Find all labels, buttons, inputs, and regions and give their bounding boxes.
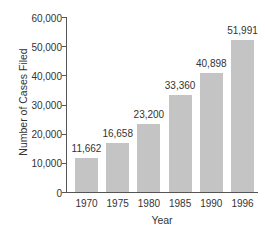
- y-tick-label: 50,000: [31, 41, 62, 52]
- x-axis-line: [66, 192, 258, 193]
- y-tick-label: 30,000: [31, 100, 62, 111]
- bar-1980: [137, 124, 160, 192]
- x-axis-label: Year: [66, 214, 258, 226]
- y-tick: [62, 17, 66, 18]
- bar-1975: [106, 143, 129, 192]
- bar-value-label: 23,200: [129, 109, 169, 120]
- y-axis-label: Number of Cases Filed: [17, 37, 29, 167]
- bar-1970: [75, 158, 98, 192]
- bar-value-label: 33,360: [160, 80, 200, 91]
- y-tick-label: 60,000: [31, 12, 62, 23]
- x-tick-label: 1996: [223, 198, 263, 209]
- y-axis-line: [66, 17, 67, 193]
- bar-value-label: 51,991: [223, 25, 263, 36]
- y-tick-label: 10,000: [31, 158, 62, 169]
- bar-chart: Number of Cases Filed 010,00020,00030,00…: [0, 0, 265, 234]
- y-tick: [62, 192, 66, 193]
- y-tick-label: 40,000: [31, 70, 62, 81]
- y-tick-label: 0: [56, 187, 62, 198]
- bar-value-label: 16,658: [98, 128, 138, 139]
- y-tick-label: 20,000: [31, 129, 62, 140]
- bar-1990: [200, 73, 223, 192]
- bar-1985: [169, 95, 192, 192]
- bar-1996: [231, 40, 254, 192]
- y-tick: [62, 163, 66, 164]
- bar-value-label: 11,662: [67, 143, 107, 154]
- y-tick: [62, 105, 66, 106]
- bar-value-label: 40,898: [191, 58, 231, 69]
- y-tick: [62, 75, 66, 76]
- y-tick: [62, 134, 66, 135]
- y-tick: [62, 46, 66, 47]
